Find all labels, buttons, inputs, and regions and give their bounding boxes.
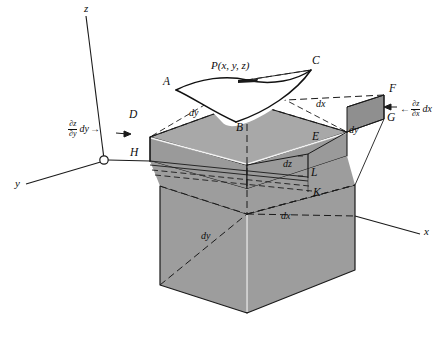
fraction-tail-dy: dy [80, 124, 89, 134]
label-dy-top-left: dy [189, 108, 198, 118]
y-axis-line [26, 161, 104, 184]
label-vertex-H: H [130, 147, 138, 159]
fraction-dz-dx: ∂z ∂x [411, 100, 421, 118]
label-partial-dz-dx: ← ∂z ∂x dx [399, 100, 432, 118]
label-dz-front: dz [283, 159, 292, 169]
label-partial-dz-dy: ∂z ∂y dy → [68, 120, 101, 138]
axis-lines [26, 16, 150, 184]
label-dx-bottom: dx [281, 211, 290, 221]
x-axis-line-left [108, 160, 150, 161]
label-vertex-C: C [312, 55, 320, 67]
label-vertex-L: L [311, 167, 317, 179]
figure-root: z y x P(x, y, z) A B C D E F G H K L dy … [0, 0, 439, 341]
axis-label-z: z [84, 3, 88, 14]
label-dy-right: dy [349, 125, 358, 135]
label-vertex-A: A [163, 76, 170, 88]
arrow-head-dzdy [124, 131, 131, 137]
axis-label-x: x [424, 226, 429, 237]
label-vertex-K: K [313, 187, 321, 199]
axis-label-y: y [15, 178, 20, 189]
label-vertex-E: E [312, 131, 319, 143]
label-dx-top-right: dx [316, 99, 325, 109]
label-point-P: P(x, y, z) [211, 60, 249, 71]
fraction-tail-dx: dx [423, 104, 432, 114]
label-vertex-G: G [387, 112, 395, 124]
label-vertex-B: B [236, 122, 243, 134]
fraction-dz-dy: ∂z ∂y [68, 120, 78, 138]
figure-drawing [0, 0, 439, 341]
arrow-right-icon: → [90, 124, 100, 134]
fraction-denominator: ∂x [411, 110, 421, 119]
origin-circle [100, 156, 108, 164]
edge-G-down [355, 119, 384, 185]
label-vertex-F: F [389, 83, 396, 95]
label-dy-bottom: dy [201, 231, 210, 241]
label-vertex-D: D [129, 109, 137, 121]
x-axis-line-right [355, 216, 420, 234]
fraction-denominator: ∂y [68, 130, 78, 139]
arrow-head-dzdx [384, 104, 391, 110]
arrow-left-icon: ← [400, 104, 410, 114]
